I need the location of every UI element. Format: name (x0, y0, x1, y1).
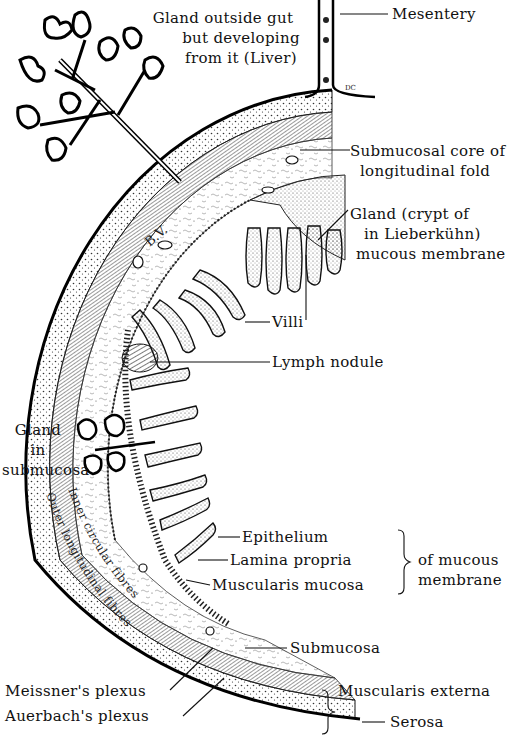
mucous-membrane-line-1: of mucous (418, 550, 502, 570)
submucosa-gland-line-1: Gland (2, 420, 74, 440)
lamina-propria-label: Lamina propria (230, 550, 352, 570)
mucous-membrane-group-label: of mucous membrane (418, 550, 502, 590)
liver-gland-label: Gland outside gut but developing from it… (118, 8, 328, 68)
crypt-gland-label: Gland (crypt of in Lieberkühn) mucous me… (350, 204, 506, 264)
meissner-plexus-label: Meissner's plexus (5, 681, 146, 701)
submucosal-core-label: Submucosal core of longitudinal fold (350, 141, 505, 181)
lymph-nodule (122, 344, 158, 372)
mucous-membrane-line-2: membrane (418, 570, 502, 590)
crypt-gland-line-2: in Lieberkühn) (350, 224, 506, 244)
liver-gland-line-3: from it (Liver) (118, 48, 328, 68)
lymph-nodule-label: Lymph nodule (272, 352, 384, 372)
submucosa-gland-line-2: in (2, 440, 74, 460)
auerbach-plexus-label: Auerbach's plexus (5, 706, 149, 726)
crypt-villi (246, 226, 342, 294)
liver-gland-line-1: Gland outside gut (118, 8, 328, 28)
submucosa-gland-line-3: submucosa (2, 460, 74, 480)
villi-label: Villi (272, 312, 303, 332)
submucosal-core-line-2: longitudinal fold (350, 161, 505, 181)
muscularis-externa-label: Muscularis externa (338, 681, 490, 701)
artist-mark: DC (345, 84, 356, 92)
submucosa-gland-label: Gland in submucosa (2, 420, 74, 480)
epithelium-label: Epithelium (242, 527, 328, 547)
crypt-gland-line-3: mucous membrane (350, 244, 506, 264)
submucosal-core-line-1: Submucosal core of (350, 141, 505, 161)
liver-gland-line-2: but developing (118, 28, 328, 48)
intestinal-wall-diagram: B.V. DC Inner circular fibres Outer long… (0, 0, 532, 739)
serosa-label: Serosa (390, 712, 444, 732)
crypt-gland-line-1: Gland (crypt of (350, 204, 506, 224)
villi (130, 270, 245, 563)
submucosa-label: Submucosa (290, 638, 380, 658)
mesentery-label: Mesentery (392, 4, 476, 24)
muscularis-mucosa-label: Muscularis mucosa (212, 575, 364, 595)
